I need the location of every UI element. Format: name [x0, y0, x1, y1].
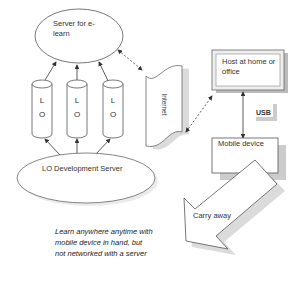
lo-label-1: L O: [37, 94, 47, 122]
lo-label-3: L O: [108, 94, 118, 122]
server-elearn-label: Server for e-learn: [53, 19, 108, 39]
internet-label: Internet: [161, 87, 168, 123]
arrow-server-internet: [118, 50, 142, 70]
caption-text: Learn anywhere anytime with mobile devic…: [55, 226, 153, 259]
arrow-dev-to-lo3: [95, 139, 110, 155]
lo-label-3-o: O: [108, 108, 118, 122]
lo-label-2: L O: [72, 94, 82, 122]
lo-dev-server-ellipse: [17, 153, 158, 206]
arrow-dev-to-lo1: [45, 139, 60, 155]
usb-label: USB: [256, 108, 271, 118]
lo-label-1-l: L: [37, 94, 47, 108]
lo-label-2-o: O: [72, 108, 82, 122]
arrow-internet-host: [186, 96, 212, 132]
internet-shape: [146, 66, 189, 150]
mobile-device-label: Mobile device: [218, 139, 264, 149]
lo-dev-server-label: LO Development Server: [42, 164, 122, 174]
lo-label-2-l: L: [72, 94, 82, 108]
lo-label-3-l: L: [108, 94, 118, 108]
lo-label-1-o: O: [37, 108, 47, 122]
host-label: Host at home or office: [222, 57, 282, 77]
carry-away-label: Carry away: [193, 211, 231, 221]
